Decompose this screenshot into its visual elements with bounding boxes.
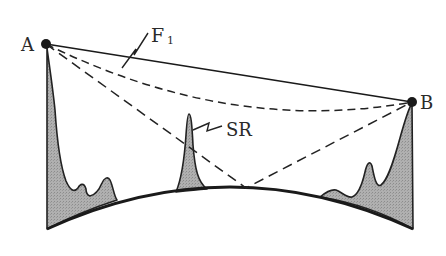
label-sr: SR bbox=[226, 119, 252, 140]
label-f1: F bbox=[151, 24, 164, 46]
propagation-diagram: A B F 1 SR bbox=[0, 0, 446, 256]
ground-reflected-path bbox=[46, 44, 412, 188]
sr-leader-line bbox=[193, 123, 222, 131]
f1-leader-line bbox=[122, 33, 148, 68]
label-f1-subscript: 1 bbox=[167, 34, 174, 47]
point-b-dot bbox=[407, 97, 417, 107]
direct-path bbox=[46, 44, 412, 102]
left-terrain bbox=[47, 48, 117, 229]
label-a: A bbox=[20, 34, 35, 55]
label-b: B bbox=[420, 92, 433, 113]
point-a-dot bbox=[41, 39, 51, 49]
fresnel-zone-boundary bbox=[46, 44, 412, 111]
